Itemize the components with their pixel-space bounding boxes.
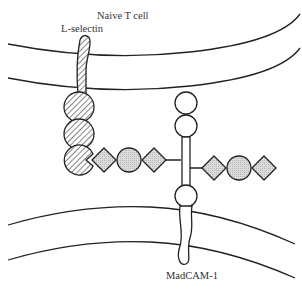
carbohydrate-chain-left [92, 148, 181, 172]
madcam-label: MadCAM-1 [166, 270, 218, 281]
t-cell-membrane [8, 14, 300, 90]
carbohydrate-chain-right [190, 156, 276, 180]
l-selectin-label: L-selectin [61, 23, 104, 34]
endothelial-membrane [8, 207, 295, 278]
madcam-molecule [175, 92, 197, 264]
l-selectin-madcam-diagram: Naive T cell L-selectin MadCAM-1 [0, 0, 302, 289]
naive-t-cell-label: Naive T cell [97, 10, 149, 21]
l-selectin-molecule [64, 36, 94, 175]
